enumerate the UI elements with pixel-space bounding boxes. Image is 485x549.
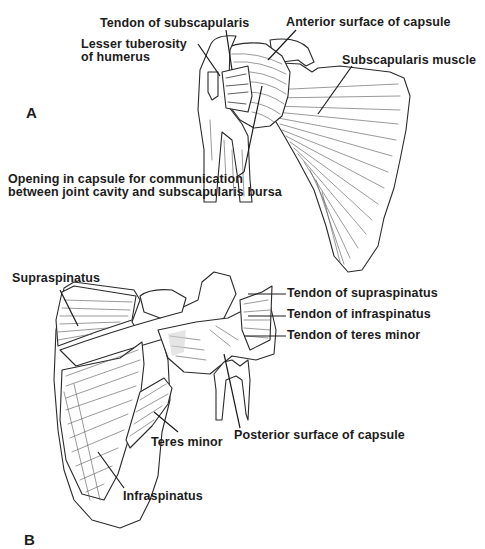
panel-a-drawing bbox=[198, 36, 410, 272]
lesser-tuberosity bbox=[208, 72, 218, 100]
label-supraspinatus: Supraspinatus bbox=[12, 272, 100, 285]
label-tendon-of-teres-minor: Tendon of teres minor bbox=[287, 329, 420, 342]
label-anterior-surface-of-capsule: Anterior surface of capsule bbox=[286, 16, 451, 29]
panel-label-a: A bbox=[26, 104, 37, 121]
subscapularis-tendon bbox=[222, 66, 252, 112]
label-tendon-of-subscapularis: Tendon of subscapularis bbox=[100, 17, 249, 30]
panel-label-b: B bbox=[24, 531, 35, 548]
label-infraspinatus: Infraspinatus bbox=[123, 490, 203, 503]
label-subscapularis-muscle: Subscapularis muscle bbox=[342, 54, 476, 67]
label-between-joint-cavity: between joint cavity and subscapularis b… bbox=[8, 186, 282, 199]
label-tendon-of-supraspinatus: Tendon of supraspinatus bbox=[287, 287, 438, 300]
label-tendon-of-infraspinatus: Tendon of infraspinatus bbox=[287, 308, 431, 321]
label-teres-minor: Teres minor bbox=[151, 436, 223, 449]
label-of-humerus: of humerus bbox=[81, 51, 150, 64]
label-posterior-surface-of-capsule: Posterior surface of capsule bbox=[234, 429, 405, 442]
